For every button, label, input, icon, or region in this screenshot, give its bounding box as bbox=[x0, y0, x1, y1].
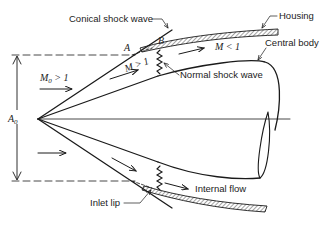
subsonic-arrow-upper bbox=[179, 48, 204, 54]
housing-leader bbox=[262, 16, 277, 28]
normal-shock-label: Normal shock wave bbox=[180, 69, 263, 80]
inlet-diagram: A0 M0 > 1 M > 1 M < 1 A B Conical shock … bbox=[0, 0, 327, 228]
housing-label: Housing bbox=[279, 10, 314, 21]
central-body-leader bbox=[258, 48, 266, 60]
subsonic-mach-label: M < 1 bbox=[214, 41, 240, 52]
post-conical-mach-label: M > 1 bbox=[122, 55, 150, 74]
inlet-lip-label: Inlet lip bbox=[90, 197, 120, 208]
central-body-lower bbox=[158, 162, 260, 179]
central-body-rear-ellipse bbox=[258, 112, 269, 178]
conical-shock-leader bbox=[152, 19, 168, 28]
freestream-mach-label: M0 > 1 bbox=[39, 72, 69, 85]
lip-dash-lower bbox=[132, 181, 152, 188]
internal-flow-arrow bbox=[165, 183, 188, 189]
conical-shock-lower bbox=[38, 119, 172, 208]
central-body-label: Central body bbox=[265, 37, 319, 48]
normal-shock-lower bbox=[157, 166, 162, 190]
conical-shock-label: Conical shock wave bbox=[69, 13, 153, 24]
point-a-label: A bbox=[123, 42, 131, 53]
normal-shock-upper bbox=[157, 50, 162, 74]
internal-flow-label: Internal flow bbox=[195, 183, 246, 194]
post-shock-arrow-lower bbox=[112, 158, 136, 171]
post-shock-arrow-upper bbox=[110, 70, 138, 79]
cone-surface-lower bbox=[38, 119, 158, 162]
point-b-label: B bbox=[158, 35, 164, 46]
